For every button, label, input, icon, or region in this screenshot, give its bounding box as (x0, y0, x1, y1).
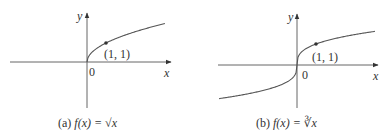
caption-a-function: f(x) = √x (74, 116, 117, 130)
x-axis-label-a: x (164, 67, 169, 79)
caption-b: (b) f(x) = ∛x (256, 116, 317, 131)
x-axis-label-b: x (373, 70, 378, 82)
caption-b-prefix: (b) (256, 116, 270, 130)
origin-label-a: 0 (89, 66, 95, 78)
origin-label-b: 0 (302, 69, 308, 81)
caption-a-prefix: (a) (58, 116, 71, 130)
caption-a: (a) f(x) = √x (58, 116, 117, 131)
graph-b (218, 14, 378, 108)
y-axis-label-a: y (77, 10, 82, 22)
point-1-1-a (104, 41, 108, 45)
point-label-a: (1, 1) (104, 48, 130, 60)
y-axis-label-b: y (288, 11, 293, 23)
point-label-b: (1, 1) (312, 51, 338, 63)
graph-a (10, 13, 171, 108)
caption-b-function: f(x) = ∛x (273, 116, 317, 130)
point-1-1-b (314, 42, 318, 46)
